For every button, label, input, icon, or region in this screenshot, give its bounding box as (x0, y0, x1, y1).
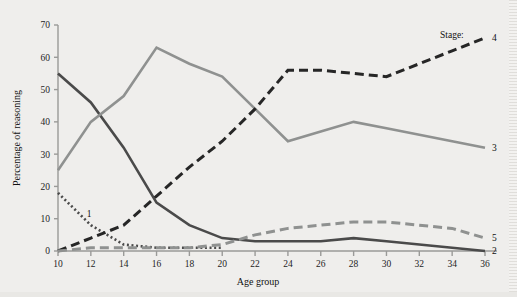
data-series-group (58, 38, 485, 251)
legend-prefix-label: Stage: (440, 30, 464, 40)
series-end-label-5: 5 (492, 233, 497, 243)
chart-figure: 010203040506070 101214161820222426283032… (0, 0, 517, 297)
y-tick-label: 20 (41, 182, 51, 192)
y-axis: 010203040506070 (41, 20, 59, 256)
x-tick-label: 22 (250, 259, 260, 269)
x-tick-label: 26 (316, 259, 326, 269)
page-edge-texture (509, 0, 517, 297)
x-tick-label: 10 (53, 259, 63, 269)
y-tick-label: 30 (41, 150, 51, 160)
series-line-1 (58, 193, 222, 248)
series-end-label-2: 2 (492, 246, 497, 256)
x-tick-label: 18 (185, 259, 195, 269)
series-end-label-4: 4 (492, 33, 497, 43)
x-tick-label: 14 (119, 259, 129, 269)
line-chart-plot: 010203040506070 101214161820222426283032… (0, 0, 517, 297)
y-tick-label: 0 (45, 246, 50, 256)
y-tick-label: 40 (41, 117, 51, 127)
x-axis: 1012141618202224262830323436 (53, 251, 497, 269)
y-axis-title: Percentage of reasoning (11, 90, 22, 186)
page-bottom-edge (0, 292, 517, 297)
x-tick-label: 12 (86, 259, 96, 269)
series-end-label-3: 3 (492, 143, 497, 153)
series-line-5 (58, 222, 485, 251)
x-axis-title: Age group (237, 276, 280, 287)
x-tick-label: 16 (152, 259, 162, 269)
x-tick-label: 30 (382, 259, 392, 269)
series-label-group: 12345 (87, 33, 497, 256)
y-tick-label: 60 (41, 53, 51, 63)
x-tick-label: 34 (447, 259, 457, 269)
y-tick-label: 50 (41, 85, 51, 95)
x-tick-label: 36 (480, 259, 490, 269)
x-tick-label: 24 (283, 259, 293, 269)
x-tick-label: 20 (217, 259, 227, 269)
series-line-3 (58, 48, 485, 171)
y-tick-label: 70 (41, 20, 51, 30)
series-end-label-1: 1 (87, 209, 92, 219)
x-tick-label: 32 (415, 259, 425, 269)
y-tick-label: 10 (41, 214, 51, 224)
x-tick-label: 28 (349, 259, 359, 269)
